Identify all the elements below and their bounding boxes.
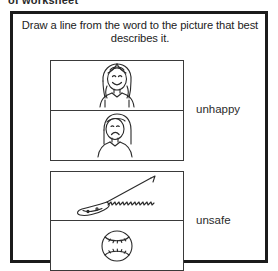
- cut-off-header-text: of worksheet: [8, 0, 138, 4]
- word-unhappy[interactable]: unhappy: [196, 103, 276, 115]
- saw-icon: [71, 174, 163, 218]
- picture-cell-happy-girl[interactable]: [51, 61, 183, 111]
- worksheet-inner-border: Draw a line from the word to the picture…: [13, 14, 265, 260]
- worksheet-frame: Draw a line from the word to the picture…: [10, 11, 268, 263]
- instruction-text: Draw a line from the word to the picture…: [20, 19, 260, 45]
- picture-cell-sad-girl[interactable]: [51, 111, 183, 161]
- picture-group-unhappy[interactable]: [50, 60, 184, 161]
- picture-cell-baseball[interactable]: [51, 221, 183, 270]
- word-unsafe[interactable]: unsafe: [196, 214, 276, 226]
- happy-girl-icon: [87, 62, 147, 108]
- baseball-icon: [97, 226, 137, 266]
- picture-group-unsafe[interactable]: [50, 171, 184, 271]
- picture-cell-saw[interactable]: [51, 172, 183, 221]
- sad-girl-icon: [90, 112, 144, 158]
